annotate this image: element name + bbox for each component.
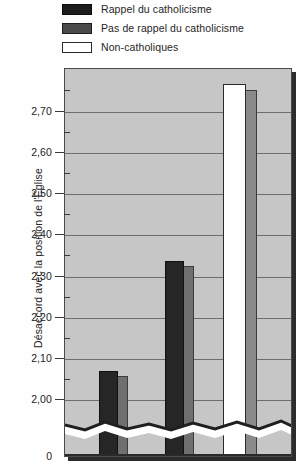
y-tick-label-2-10: 2,10 bbox=[6, 352, 52, 364]
bar-side-face bbox=[245, 90, 257, 456]
y-tick-label-zero: 0 bbox=[6, 450, 52, 461]
tick-major-2-60 bbox=[55, 152, 64, 153]
tick-minor-2-55 bbox=[64, 173, 70, 174]
tick-minor-2-75 bbox=[64, 90, 70, 91]
y-tick-label-2-70: 2,70 bbox=[6, 105, 52, 117]
y-axis-title: Désaccord avec la position de l'Église bbox=[32, 128, 44, 388]
bar-front-face[interactable] bbox=[165, 261, 184, 456]
y-tick-label-2-40: 2,40 bbox=[6, 228, 52, 240]
tick-major-2-30 bbox=[55, 276, 64, 277]
tick-minor-2-05 bbox=[64, 379, 70, 380]
bar-front-face[interactable] bbox=[223, 84, 246, 456]
legend-item-label: Pas de rappel du catholicisme bbox=[101, 23, 244, 34]
bar-group-rappel-du-catholicisme[interactable] bbox=[99, 68, 128, 456]
y-tick-label-2-20: 2,20 bbox=[6, 311, 52, 323]
tick-major-2-70 bbox=[55, 111, 64, 112]
tick-minor-2-35 bbox=[64, 255, 70, 256]
tick-major-2-00 bbox=[55, 399, 64, 400]
tick-minor-2-65 bbox=[64, 132, 70, 133]
legend-item-pas-de-rappel-du-catholicisme[interactable]: Pas de rappel du catholicisme bbox=[62, 20, 299, 37]
bar-side-face bbox=[183, 266, 194, 456]
x-axis-baseline bbox=[65, 454, 291, 456]
tick-minor-2-25 bbox=[64, 297, 70, 298]
tick-major-2-40 bbox=[55, 234, 64, 235]
legend-item-non-catholiques[interactable]: Non-catholiques bbox=[62, 39, 299, 56]
legend-item-label: Non-catholiques bbox=[101, 42, 178, 53]
bar-front-face[interactable] bbox=[99, 371, 118, 456]
tick-major-2-50 bbox=[55, 193, 64, 194]
y-tick-label-2-60: 2,60 bbox=[6, 146, 52, 158]
legend-swatch-white-icon bbox=[62, 42, 92, 53]
y-tick-label-2-50: 2,50 bbox=[6, 187, 52, 199]
legend-item-rappel-du-catholicisme[interactable]: Rappel du catholicisme bbox=[62, 1, 299, 18]
chart-legend: Rappel du catholicisme Pas de rappel du … bbox=[62, 1, 299, 58]
legend-swatch-dark-gray-icon bbox=[62, 23, 92, 34]
bar-group-non-catholiques[interactable] bbox=[223, 68, 257, 456]
bar-group-pas-de-rappel-du-catholicisme[interactable] bbox=[165, 68, 194, 456]
y-tick-label-2-30: 2,30 bbox=[6, 270, 52, 282]
plot-area bbox=[64, 68, 292, 457]
tick-major-2-10 bbox=[55, 358, 64, 359]
tick-minor-2-45 bbox=[64, 214, 70, 215]
legend-item-label: Rappel du catholicisme bbox=[101, 4, 212, 15]
tick-minor-2-15 bbox=[64, 338, 70, 339]
legend-swatch-black-icon bbox=[62, 4, 92, 15]
bar-side-face bbox=[117, 376, 128, 456]
chart-container: Rappel du catholicisme Pas de rappel du … bbox=[0, 0, 299, 461]
y-tick-label-2-00: 2,00 bbox=[6, 393, 52, 405]
tick-major-2-20 bbox=[55, 317, 64, 318]
